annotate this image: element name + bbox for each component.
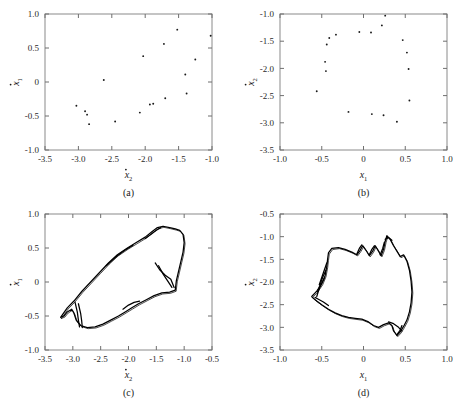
data-point [194,59,196,61]
x-axis-label: x2 [124,369,133,382]
svg-text:x1: x1 [10,78,23,87]
attractor-spike [145,228,161,239]
y-axis-label: x1 [10,278,23,287]
plot-frame [280,14,447,150]
x-tick-label: -1.0 [273,154,288,164]
attractor-band [313,237,413,337]
data-point [348,111,350,113]
svg-text:x2: x2 [245,278,258,287]
svg-text:x1: x1 [10,278,23,287]
data-point [408,100,410,102]
x-tick-label: -2.5 [94,354,109,364]
panel-d: -1.0-0.500.51.0-3.5-3.0-2.5-2.0-1.5-1.0-… [235,200,470,406]
data-point [370,32,372,34]
x-tick-label: 1.0 [441,154,453,164]
y-tick-label: -2.0 [260,277,275,287]
x-tick-label: -2.0 [121,354,136,364]
attractor-spike [155,263,174,287]
y-tick-label: 1.0 [28,9,40,19]
x-tick-label: -2.5 [105,154,120,164]
panel-c: -3.5-3.0-2.5-2.0-1.5-1.0-0.5-1.0-0.500.5… [0,200,235,406]
y-axis-label: x1 [10,78,23,87]
scatter-layer [75,29,211,125]
x-tick-label: -3.5 [38,354,53,364]
y-tick-label: -1.5 [260,36,275,46]
x-tick-label: -2.0 [138,154,153,164]
x-tick-label: -3.0 [71,154,86,164]
data-point [396,121,398,123]
plot-frame [45,214,212,350]
x-tick-label: -1.0 [205,154,220,164]
data-point [316,90,318,92]
y-tick-label: -2.0 [260,64,275,74]
x-axis-label: x2 [124,169,133,182]
figure-container: -3.5-3.0-2.5-2.0-1.5-1.0-1.0-0.500.51.0x… [0,0,470,406]
data-point [358,31,360,33]
y-tick-label: -1.0 [25,145,40,155]
y-tick-label: -1.0 [260,9,275,19]
x-tick-label: -3.0 [66,354,81,364]
plot-d: -1.0-0.500.51.0-3.5-3.0-2.5-2.0-1.5-1.0-… [235,200,470,406]
data-point [408,68,410,70]
y-tick-label: -1.0 [25,345,40,355]
y-tick-label: 0.5 [28,43,40,53]
y-tick-label: -0.5 [25,111,40,121]
data-point [335,34,337,36]
y-axis-label: x2 [245,78,258,87]
data-point [176,29,178,31]
plot-b: -1.0-0.500.51.0-3.5-3.0-2.5-2.0-1.5-1.0x… [235,0,470,203]
x-axis-label: x1 [359,169,368,182]
data-point [164,97,166,99]
data-point [381,24,383,26]
y-tick-label: -0.5 [260,209,275,219]
panel-caption: (c) [123,387,134,399]
y-tick-label: 0.5 [28,243,40,253]
data-point [328,37,330,39]
attractor-layer [312,236,413,337]
data-point [384,15,386,17]
attractor-spike [106,245,133,265]
panel-a: -3.5-3.0-2.5-2.0-1.5-1.0-1.0-0.500.51.0x… [0,0,235,203]
y-tick-label: 0 [35,277,40,287]
x-tick-label: -0.5 [315,354,330,364]
panel-caption: (a) [123,187,134,199]
data-point [210,35,212,37]
data-point [406,52,408,54]
plot-a: -3.5-3.0-2.5-2.0-1.5-1.0-1.0-0.500.51.0x… [0,0,235,203]
overdot-glyph [10,284,12,286]
svg-text:x2: x2 [124,369,133,382]
x-tick-label: -0.5 [205,354,220,364]
x-tick-label: -3.5 [38,154,53,164]
y-tick-label: -3.0 [260,323,275,333]
y-tick-label: -3.5 [260,145,275,155]
plot-frame [45,14,212,150]
plot-c: -3.5-3.0-2.5-2.0-1.5-1.0-0.5-1.0-0.500.5… [0,200,235,406]
data-point [325,70,327,72]
svg-text:x1: x1 [359,369,368,382]
attractor-spike [159,266,172,288]
svg-text:x2: x2 [124,169,133,182]
x-tick-label: 0 [361,354,366,364]
x-tick-label: 0.5 [400,354,412,364]
data-point [88,123,90,125]
x-tick-label: -1.0 [177,354,192,364]
overdot-glyph [245,84,247,86]
x-tick-label: -1.5 [149,354,164,364]
svg-text:x1: x1 [359,169,368,182]
attractor-spike [318,270,326,292]
data-point [184,74,186,76]
scatter-layer [316,15,411,123]
y-tick-label: -3.0 [260,118,275,128]
x-tick-label: 0 [361,154,366,164]
y-tick-label: -2.5 [260,300,275,310]
x-tick-label: -1.0 [273,354,288,364]
overdot-glyph [245,284,247,286]
data-point [371,113,373,115]
data-point [149,103,151,105]
plot-frame [280,214,447,350]
attractor-layer [61,226,185,328]
y-tick-label: 0 [35,77,40,87]
panel-b: -1.0-0.500.51.0-3.5-3.0-2.5-2.0-1.5-1.0x… [235,0,470,203]
data-point [84,110,86,112]
x-tick-label: -1.5 [171,154,186,164]
